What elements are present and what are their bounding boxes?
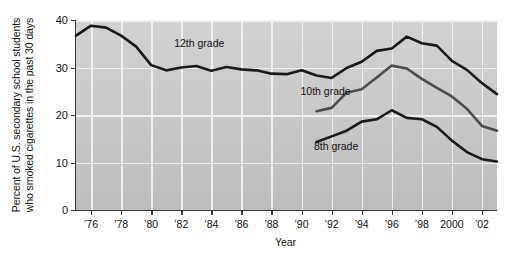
y-axis-tick-label: 20: [56, 109, 68, 121]
x-axis-tick: [392, 210, 393, 215]
x-axis-tick-label: ’02: [475, 218, 489, 230]
y-axis-tick-label: 40: [56, 14, 68, 26]
y-axis-tick: [71, 210, 76, 211]
data-series-lines: [76, 20, 497, 210]
y-axis-tick: [71, 163, 76, 164]
y-axis-title-line-1: Percent of U.S. secondary school student…: [10, 18, 23, 212]
plot-area: 010203040 ’76’78’80’82’84’86’88’90’92’94…: [75, 20, 497, 211]
x-axis-tick: [241, 210, 242, 215]
x-axis-tick: [121, 210, 122, 215]
chart-figure: Percent of U.S. secondary school student…: [0, 0, 524, 260]
series-label-10th-grade: 10th grade: [300, 85, 350, 97]
y-axis-tick-label: 0: [62, 204, 68, 216]
y-axis-tick-label: 30: [56, 62, 68, 74]
x-axis-tick-label: ’84: [204, 218, 218, 230]
x-axis-tick: [181, 210, 182, 215]
series-label-12th-grade: 12th grade: [174, 37, 224, 49]
x-axis-tick: [211, 210, 212, 215]
x-axis-tick-label: ’80: [144, 218, 158, 230]
x-axis-tick: [422, 210, 423, 215]
series-line-8th-grade: [317, 110, 497, 161]
series-line-10th-grade: [317, 66, 497, 131]
x-axis-tick: [362, 210, 363, 215]
x-axis-tick-label: 2000: [440, 218, 463, 230]
x-axis-tick: [332, 210, 333, 215]
x-axis-tick: [151, 210, 152, 215]
x-axis-tick-label: ’96: [385, 218, 399, 230]
x-axis-tick: [302, 210, 303, 215]
series-label-8th-grade: 8th grade: [314, 140, 358, 152]
y-axis-tick: [71, 115, 76, 116]
series-line-12th-grade: [76, 26, 497, 94]
x-axis-tick: [91, 210, 92, 215]
x-axis-tick-label: ’92: [325, 218, 339, 230]
x-axis-tick-label: ’82: [174, 218, 188, 230]
x-axis-tick-label: ’86: [234, 218, 248, 230]
x-axis-title: Year: [75, 236, 496, 248]
x-axis-tick-label: ’76: [84, 218, 98, 230]
x-axis-tick: [271, 210, 272, 215]
x-axis-tick-label: ’90: [295, 218, 309, 230]
y-axis-title-line-2: who smoked cigarettes in the past 30 day…: [23, 18, 36, 212]
x-axis-tick: [452, 210, 453, 215]
x-axis-tick-label: ’98: [415, 218, 429, 230]
y-axis-tick-label: 10: [56, 157, 68, 169]
x-axis-tick-label: ’78: [114, 218, 128, 230]
y-axis-title: Percent of U.S. secondary school student…: [0, 0, 46, 230]
x-axis-tick-label: ’94: [355, 218, 369, 230]
y-axis-tick: [71, 20, 76, 21]
y-axis-tick: [71, 68, 76, 69]
x-axis-tick-label: ’88: [264, 218, 278, 230]
x-axis-tick: [482, 210, 483, 215]
